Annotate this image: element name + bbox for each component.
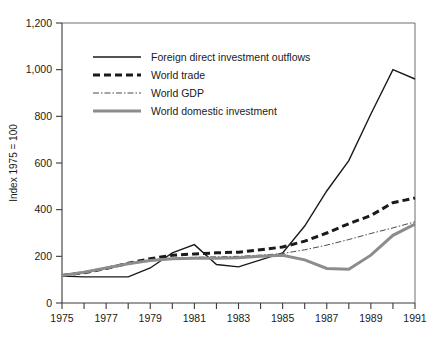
x-tick-label: 1977 — [94, 312, 118, 324]
x-tick-label: 1983 — [227, 312, 251, 324]
x-tick-label: 1979 — [139, 312, 163, 324]
legend-label: World GDP — [151, 87, 204, 99]
x-tick-label: 1985 — [271, 312, 295, 324]
y-axis-ticks: 02004006008001,0001,200 — [26, 17, 62, 309]
y-tick-label: 800 — [34, 110, 52, 122]
series-line — [62, 198, 415, 275]
x-tick-label: 1989 — [359, 312, 383, 324]
x-axis-ticks: 197519771979198119831985198719891991 — [50, 303, 427, 324]
line-chart: 02004006008001,0001,200 1975197719791981… — [0, 0, 442, 346]
legend-label: Foreign direct investment outflows — [151, 51, 310, 63]
y-tick-label: 200 — [34, 250, 52, 262]
y-tick-label: 1,000 — [26, 63, 52, 75]
y-tick-label: 0 — [46, 297, 52, 309]
x-tick-label: 1991 — [403, 312, 427, 324]
y-axis-title: Index 1975 = 100 — [8, 124, 19, 202]
x-tick-label: 1975 — [50, 312, 74, 324]
series-line — [62, 70, 415, 277]
chart-legend: Foreign direct investment outflowsWorld … — [93, 51, 310, 117]
series-line — [62, 224, 415, 275]
y-tick-label: 600 — [34, 157, 52, 169]
legend-label: World trade — [151, 69, 205, 81]
series-group — [62, 70, 415, 277]
chart-container: 02004006008001,0001,200 1975197719791981… — [0, 0, 442, 346]
legend-label: World domestic investment — [151, 105, 277, 117]
x-tick-label: 1981 — [183, 312, 207, 324]
x-tick-label: 1987 — [315, 312, 339, 324]
y-tick-label: 1,200 — [26, 17, 52, 29]
y-tick-label: 400 — [34, 203, 52, 215]
